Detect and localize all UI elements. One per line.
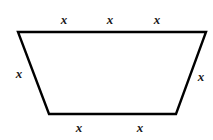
right-side-label: x bbox=[193, 70, 209, 83]
trapezoid-outline bbox=[18, 32, 206, 114]
left-side-label: x bbox=[11, 67, 27, 80]
trapezoid-figure: x x x x x x x bbox=[0, 0, 213, 140]
bottom-side-label-2: x bbox=[132, 121, 148, 134]
top-side-label-3: x bbox=[149, 13, 165, 26]
bottom-side-label-1: x bbox=[71, 121, 87, 134]
top-side-label-1: x bbox=[56, 13, 72, 26]
top-side-label-2: x bbox=[102, 13, 118, 26]
